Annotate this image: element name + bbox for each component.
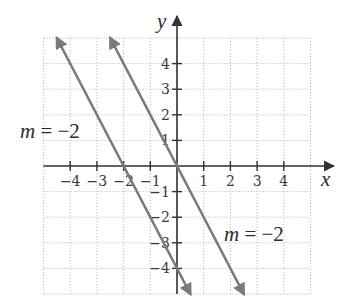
x-tick-label: −4 bbox=[60, 173, 81, 189]
x-axis-label: x bbox=[320, 167, 331, 191]
y-tick-label: −1 bbox=[149, 184, 170, 200]
x-tick-label: −3 bbox=[87, 173, 108, 189]
y-tick-label: 4 bbox=[161, 56, 170, 72]
y-axis-label: y bbox=[155, 9, 167, 33]
x-tick-label: 3 bbox=[253, 173, 262, 189]
axes bbox=[44, 16, 335, 294]
x-tick-label: 4 bbox=[279, 173, 288, 189]
y-tick-label: −4 bbox=[149, 260, 170, 276]
x-tick-label: 1 bbox=[199, 173, 208, 189]
coordinate-plane: −4−3−2−112344321−1−2−3−4 x y m = −2 m = … bbox=[0, 0, 347, 306]
annotation-right-slope: m = −2 bbox=[224, 222, 284, 246]
y-tick-label: 3 bbox=[161, 81, 170, 97]
annotation-left-slope: m = −2 bbox=[20, 119, 80, 143]
x-tick-label: 2 bbox=[226, 173, 235, 189]
y-tick-label: 2 bbox=[161, 107, 170, 123]
